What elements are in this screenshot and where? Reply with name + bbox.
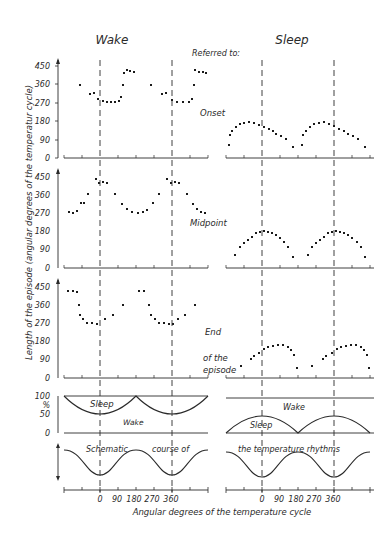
ytick: 90 bbox=[40, 355, 50, 364]
ytick: 360 bbox=[35, 80, 50, 89]
xtick: 90 bbox=[112, 495, 122, 504]
schematic-caption-3: the temperature rhythms bbox=[238, 445, 340, 454]
x-axes: 0 90 180 270 360 0 90 180 270 360 Angula… bbox=[64, 487, 374, 517]
ytick: 270 bbox=[35, 99, 50, 108]
schematic-caption-1: Schematic bbox=[86, 445, 129, 454]
ytick-pct: % bbox=[42, 401, 50, 410]
label-end: End bbox=[205, 327, 222, 337]
ytick: 270 bbox=[35, 319, 50, 328]
ytick: 180 bbox=[35, 337, 50, 346]
panel-end: 450 360 270 180 90 0 End bbox=[35, 278, 374, 383]
panel-temperature: Schematic course of the temperature rhyt… bbox=[56, 443, 370, 481]
ytick: 90 bbox=[40, 245, 50, 254]
y-axis-label: Length of the episode (angular degrees o… bbox=[24, 85, 34, 360]
xtick: 0 bbox=[259, 495, 264, 504]
panel-onset: 450 360 270 180 90 0 bbox=[35, 58, 374, 163]
col-title-wake: Wake bbox=[96, 33, 129, 47]
schematic-sleep-left: Sleep bbox=[90, 399, 114, 409]
ytick: 450 bbox=[35, 173, 50, 182]
figure-canvas: Wake Sleep Referred to: Length of the ep… bbox=[0, 0, 392, 549]
reference-dashed-lines bbox=[100, 60, 334, 492]
col-title-sleep: Sleep bbox=[275, 33, 309, 47]
panel-midpoint: 450 360 270 180 90 0 bbox=[35, 168, 374, 273]
label-end-of-the: of the bbox=[203, 353, 228, 363]
x-axis-label: Angular degrees of the temperature cycle bbox=[132, 507, 312, 517]
panel-percent: 100 % 50 0 Sleep Wake Wake Sleep bbox=[35, 392, 374, 438]
xtick: 0 bbox=[97, 495, 102, 504]
ytick-0: 0 bbox=[45, 429, 50, 438]
xtick: 90 bbox=[274, 495, 284, 504]
xtick: 180 bbox=[288, 495, 303, 504]
ytick: 270 bbox=[35, 209, 50, 218]
xtick: 180 bbox=[126, 495, 141, 504]
schematic-wake-right: Wake bbox=[283, 403, 305, 412]
ytick: 0 bbox=[45, 264, 50, 273]
xtick: 270 bbox=[144, 495, 159, 504]
ytick: 180 bbox=[35, 227, 50, 236]
ytick: 90 bbox=[40, 136, 50, 145]
ytick: 360 bbox=[35, 301, 50, 310]
ytick-100: 100 bbox=[35, 392, 50, 401]
ytick: 0 bbox=[45, 374, 50, 383]
schematic-caption-2: course of bbox=[152, 445, 190, 454]
xtick: 360 bbox=[325, 495, 340, 504]
label-end-episode: episode bbox=[203, 365, 236, 375]
ytick: 450 bbox=[35, 283, 50, 292]
ytick: 180 bbox=[35, 117, 50, 126]
referred-to-label: Referred to: bbox=[192, 49, 240, 58]
xtick: 360 bbox=[163, 495, 178, 504]
ytick: 450 bbox=[35, 62, 50, 71]
label-onset: Onset bbox=[200, 108, 226, 118]
schematic-sleep-right: Sleep bbox=[250, 421, 272, 430]
ytick-50: 50 bbox=[40, 410, 50, 419]
ytick: 0 bbox=[45, 154, 50, 163]
ytick: 360 bbox=[35, 191, 50, 200]
xtick: 270 bbox=[306, 495, 321, 504]
schematic-wake-left: Wake bbox=[123, 418, 144, 427]
label-midpoint: Midpoint bbox=[190, 218, 227, 228]
